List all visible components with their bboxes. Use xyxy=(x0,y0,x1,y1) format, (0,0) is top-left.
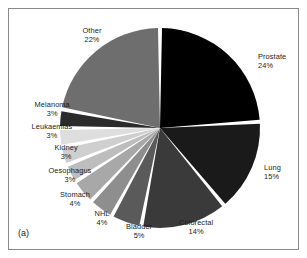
pie-label-nhl: NHL4% xyxy=(95,209,110,227)
pie-label-name: Other xyxy=(83,26,102,35)
pie-label-stomach: Stomach4% xyxy=(60,190,90,208)
pie-label-value: 14% xyxy=(179,227,213,236)
pie-slice-prostate xyxy=(160,28,260,128)
pie-label-melanoma: Melanoma3% xyxy=(35,100,70,118)
pie-label-name: Leukaemias xyxy=(32,122,73,131)
pie-label-value: 3% xyxy=(55,152,78,161)
pie-label-name: NHL xyxy=(95,209,110,218)
pie-label-lung: Lung15% xyxy=(264,163,281,181)
pie-label-name: Bladder xyxy=(126,222,152,231)
pie-label-name: Lung xyxy=(264,163,281,172)
pie-label-kidney: Kidney3% xyxy=(55,143,78,161)
pie-label-leukaemias: Leukaemias3% xyxy=(32,122,73,140)
pie-label-name: Prostate xyxy=(258,52,286,61)
pie-label-value: 3% xyxy=(49,175,92,184)
pie-label-value: 22% xyxy=(83,35,102,44)
pie-label-value: 4% xyxy=(60,199,90,208)
pie-slice-group xyxy=(60,28,260,228)
pie-label-name: Colorectal xyxy=(179,218,213,227)
pie-label-oesophagus: Oesophagus3% xyxy=(49,166,92,184)
pie-label-other: Other22% xyxy=(83,26,102,44)
pie-label-colorectal: Colorectal14% xyxy=(179,218,213,236)
figure-panel: Prostate24%Lung15%Colorectal14%Bladder5%… xyxy=(0,0,307,258)
pie-label-value: 5% xyxy=(126,231,152,240)
pie-label-value: 15% xyxy=(264,172,281,181)
pie-label-name: Kidney xyxy=(55,143,78,152)
pie-label-bladder: Bladder5% xyxy=(126,222,152,240)
panel-caption: (a) xyxy=(18,228,29,238)
pie-label-name: Stomach xyxy=(60,190,90,199)
pie-label-value: 24% xyxy=(258,61,286,70)
pie-label-value: 3% xyxy=(32,131,73,140)
pie-slice-other xyxy=(62,28,160,128)
pie-label-name: Oesophagus xyxy=(49,166,92,175)
pie-label-value: 4% xyxy=(95,218,110,227)
pie-label-value: 3% xyxy=(35,109,70,118)
pie-label-name: Melanoma xyxy=(35,100,70,109)
pie-label-prostate: Prostate24% xyxy=(258,52,286,70)
